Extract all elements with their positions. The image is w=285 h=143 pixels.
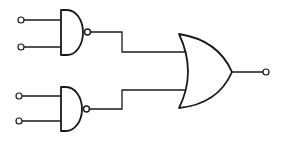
output-terminal[interactable] [263,69,269,75]
input-terminal-3[interactable] [16,93,22,99]
nand-gate-top [24,10,91,55]
nand-gate-bottom [22,87,90,131]
input-terminal-2[interactable] [18,44,24,50]
nand-bottom-body [61,87,82,131]
wire-nand-bottom-to-or [90,90,187,109]
or-body [179,34,232,108]
nand-top-inversion-bubble [85,29,91,35]
nand-top-body [61,10,83,55]
logic-circuit-diagram: Two 2-input NAND gates feeding a 2-input… [0,0,285,143]
wire-nand-top-to-or [91,32,187,52]
input-terminal-1[interactable] [18,17,24,23]
or-gate [179,34,232,108]
input-terminal-4[interactable] [16,118,22,124]
nand-bottom-inversion-bubble [84,106,90,112]
